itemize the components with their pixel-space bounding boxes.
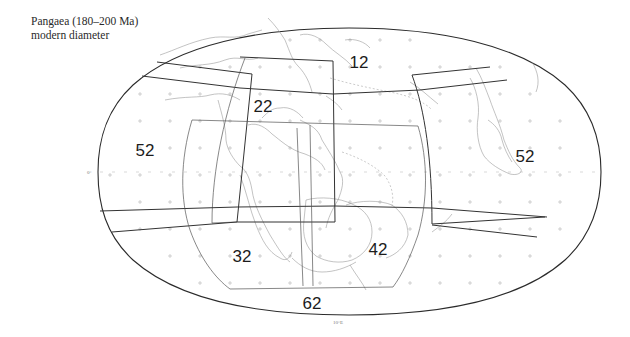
central-strip-right [310, 125, 313, 286]
north-band-lower-line [142, 76, 507, 94]
south-band-upper-line [100, 206, 547, 217]
zone-boundaries [100, 57, 547, 289]
pangaea-map: 0° 10°E 12225252324262 [0, 0, 630, 337]
middle-box-top [192, 120, 418, 126]
zone-22-inner-arc [212, 58, 245, 223]
zone-52-right-label: 52 [516, 147, 535, 166]
right-band-upper-line [412, 67, 490, 75]
zone-22-box [237, 57, 335, 222]
zone-32-label: 32 [233, 247, 252, 266]
middle-box-left-edge [183, 120, 230, 289]
zone-62-label: 62 [303, 294, 322, 313]
zone-22-label: 22 [254, 97, 273, 116]
north-band-upper-line [157, 62, 252, 74]
zone-12-label: 12 [350, 53, 369, 72]
middle-box-right-edge [393, 126, 426, 287]
equator-label: 0° [87, 170, 92, 175]
zone-42-label: 42 [369, 240, 388, 259]
right-box-left-edge [412, 75, 432, 224]
south-band-lower-line [112, 222, 237, 232]
meridian-label: 10°E [333, 320, 343, 325]
right-band-lower-line-2 [432, 225, 537, 237]
middle-box-bottom [230, 287, 393, 289]
central-strip-left [297, 128, 303, 286]
zone-52-left-label: 52 [136, 141, 155, 160]
